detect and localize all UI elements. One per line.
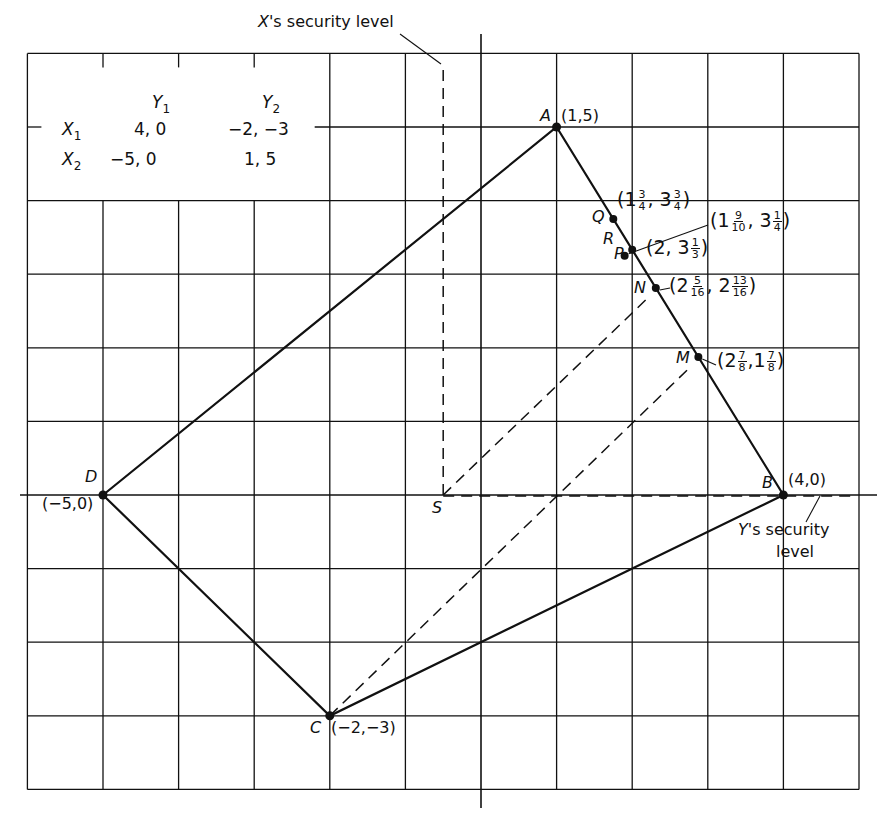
y-security-level-label: Y's security: [738, 522, 829, 538]
col-header-y2: Y2: [262, 92, 280, 112]
dashed-construction-lines: [330, 64, 855, 716]
point-p-coord: (2, 313): [646, 237, 708, 260]
vertex-c-name: C: [310, 720, 321, 736]
cell-x2-y1: −5, 0: [110, 149, 157, 169]
point-p-name: P: [614, 246, 624, 262]
leader-lines: [400, 34, 820, 522]
vertex-c-coord: (−2,−3): [331, 720, 396, 736]
x-security-leader: [400, 34, 441, 64]
y-security-level-label-line2: level: [776, 544, 814, 560]
point-r-name: R: [603, 231, 614, 247]
point-r-coord: (1910, 314): [710, 210, 790, 233]
vertex-b-dot: [779, 491, 788, 500]
col-header-y1: Y1: [152, 92, 170, 112]
vertex-a-dot: [552, 123, 561, 132]
vertex-b-name: B: [762, 475, 773, 491]
point-q-coord: (134, 334): [617, 189, 690, 212]
dashed-c-to-m: [330, 367, 691, 716]
point-m-name: M: [676, 350, 690, 366]
vertex-d-name: D: [85, 469, 97, 485]
dashed-s-to-n: [443, 296, 650, 495]
point-m-dot: [694, 353, 702, 361]
vertex-b-coord: (4,0): [788, 472, 826, 488]
point-s-name: S: [432, 500, 442, 516]
point-n-coord: (2516, 21316): [669, 275, 756, 298]
y-security-leader: [806, 496, 820, 522]
cell-x1-y1: 4, 0: [134, 119, 166, 139]
point-q-dot: [609, 215, 617, 223]
m-label-leader: [702, 359, 716, 365]
point-p-dot: [628, 246, 636, 254]
point-m-coord: (278,178): [717, 350, 784, 373]
vertex-a-coord: (1,5): [561, 108, 599, 124]
row-header-x2: X2: [62, 149, 81, 169]
cell-x1-y2: −2, −3: [228, 119, 289, 139]
x-security-level-label: X's security level: [258, 14, 394, 30]
cell-x2-y2: 1, 5: [244, 149, 276, 169]
vertex-d-coord: (−5,0): [42, 496, 93, 512]
point-q-name: Q: [592, 209, 605, 225]
vertex-d-dot: [99, 491, 108, 500]
vertex-a-name: A: [540, 108, 551, 124]
point-n-name: N: [634, 280, 646, 296]
row-header-x1: X1: [62, 119, 81, 139]
point-n-dot: [652, 284, 660, 292]
